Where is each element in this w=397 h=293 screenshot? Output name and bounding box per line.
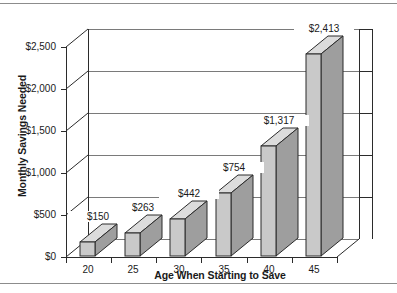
bar-value-label-40: $1,317 [249, 115, 309, 126]
bar-column-35 [216, 175, 253, 256]
bar-column-20 [80, 224, 117, 256]
x-tick-label-45: 45 [294, 264, 334, 275]
bar-value-label-25: $263 [113, 202, 173, 213]
bar-front-face [216, 193, 231, 256]
y-tick-marks [61, 47, 66, 257]
bar-value-label-45: $2,413 [294, 23, 354, 34]
x-tick-label-25: 25 [113, 264, 153, 275]
bar-side-face [276, 128, 298, 256]
x-tick-marks [66, 257, 337, 263]
chart-container: Monthly Savings Needed Age When Starting… [0, 0, 397, 293]
y-tick-label-0: $0 [0, 251, 56, 262]
bar-side-face [321, 36, 343, 256]
y-tick-label-500: $500 [0, 209, 56, 220]
bar-value-label-35: $754 [204, 162, 264, 173]
bar-front-face [170, 219, 185, 256]
y-axis-title: Monthly Savings Needed [16, 46, 28, 226]
depth-connectors [66, 29, 88, 257]
depth-line-2500 [66, 29, 88, 47]
bar-column-45 [306, 36, 343, 256]
bar-column-30 [170, 201, 207, 256]
bar-column-25 [125, 215, 162, 256]
bar-front-face [80, 242, 95, 256]
right-tick-marks [359, 29, 372, 239]
depth-line-1500 [66, 113, 88, 131]
x-tick-label-30: 30 [159, 264, 199, 275]
x-tick-label-35: 35 [204, 264, 244, 275]
bar-front-face [306, 54, 321, 256]
depth-line-2000 [66, 71, 88, 89]
y-tick-label-2500: $2,500 [0, 41, 56, 52]
y-tick-label-1000: $1,000 [0, 167, 56, 178]
x-tick-label-40: 40 [249, 264, 289, 275]
floor-right-diagonal [337, 239, 359, 257]
bar-value-label-30: $442 [159, 188, 219, 199]
x-tick-label-20: 20 [68, 264, 108, 275]
plot-area [0, 0, 397, 293]
depth-line-1000 [66, 155, 88, 173]
y-tick-label-2000: $2,000 [0, 83, 56, 94]
y-tick-label-1500: $1,500 [0, 125, 56, 136]
bar-column-40 [261, 128, 298, 256]
bar-front-face [125, 233, 140, 256]
